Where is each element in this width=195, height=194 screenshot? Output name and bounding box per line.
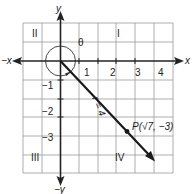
- y-tick-neg2: −2: [42, 106, 54, 117]
- point-p-label: P(√7, −3): [132, 121, 173, 132]
- angle-theta-label: θ: [78, 37, 84, 48]
- point-p: [125, 129, 130, 134]
- quadrant-i-label: I: [117, 28, 120, 39]
- quadrant-ii-label: II: [32, 28, 38, 39]
- y-tick-neg1: −1: [42, 80, 54, 91]
- x-tick-2: 2: [110, 67, 116, 78]
- x-pos-label: x: [184, 55, 191, 66]
- x-tick-3: 3: [135, 67, 141, 78]
- y-tick-neg3: −3: [42, 132, 54, 143]
- x-tick-4: 4: [158, 67, 164, 78]
- quadrant-iii-label: III: [31, 152, 39, 163]
- y-pos-label: y: [55, 3, 62, 14]
- x-neg-label: −x: [1, 55, 13, 66]
- coordinate-plane-diagram: y x −x −y 1 2 3 4 −1 −2 −3 II I III IV θ…: [0, 0, 195, 194]
- x-tick-1: 1: [84, 67, 90, 78]
- y-neg-label: −y: [54, 184, 66, 194]
- quadrant-iv-label: IV: [115, 152, 125, 163]
- radius-label: r = 4: [90, 95, 108, 118]
